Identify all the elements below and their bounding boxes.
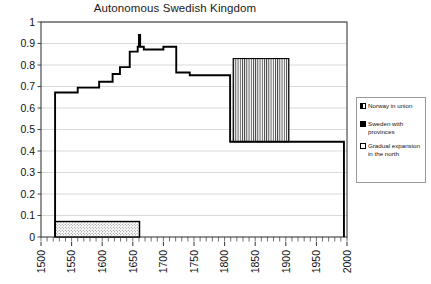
- svg-text:0.2: 0.2: [20, 188, 35, 200]
- svg-text:0.7: 0.7: [20, 80, 35, 92]
- legend-label-norway: Norway in union: [368, 102, 412, 109]
- svg-text:1550: 1550: [65, 250, 77, 274]
- svg-text:1800: 1800: [218, 250, 230, 274]
- svg-text:1500: 1500: [35, 250, 47, 274]
- axis-ticks: [38, 22, 348, 246]
- legend-label-gradual: Gradual expansion in the north: [368, 142, 422, 157]
- legend-item-sweden: Sweden with provinces: [360, 120, 422, 135]
- svg-text:0.8: 0.8: [20, 59, 35, 71]
- hatched-square-icon: [360, 103, 366, 109]
- svg-text:0.1: 0.1: [20, 209, 35, 221]
- svg-text:0: 0: [29, 231, 35, 243]
- svg-text:0.4: 0.4: [20, 145, 35, 157]
- filled-square-icon: [360, 121, 366, 127]
- legend-item-norway: Norway in union: [360, 102, 422, 109]
- chart-legend: Norway in union Sweden with provinces Gr…: [356, 97, 426, 183]
- svg-text:1700: 1700: [157, 250, 169, 274]
- grid-lines: [41, 22, 347, 216]
- x-axis-labels: 1500155016001650170017501800185019001950…: [35, 250, 353, 274]
- svg-text:1: 1: [29, 16, 35, 28]
- legend-item-gradual: Gradual expansion in the north: [360, 142, 422, 157]
- legend-label-sweden: Sweden with provinces: [368, 120, 422, 135]
- svg-text:1600: 1600: [96, 250, 108, 274]
- svg-text:2000: 2000: [341, 250, 353, 274]
- svg-text:1900: 1900: [280, 250, 292, 274]
- svg-text:1650: 1650: [127, 250, 139, 274]
- svg-text:0.5: 0.5: [20, 123, 35, 135]
- svg-text:0.9: 0.9: [20, 37, 35, 49]
- svg-text:0.6: 0.6: [20, 102, 35, 114]
- svg-text:0.3: 0.3: [20, 166, 35, 178]
- y-axis-labels: 00.10.20.30.40.50.60.70.80.91: [20, 16, 35, 243]
- svg-text:1750: 1750: [188, 250, 200, 274]
- svg-text:1850: 1850: [249, 250, 261, 274]
- empty-square-icon: [360, 143, 366, 149]
- svg-text:1950: 1950: [310, 250, 322, 274]
- chart-container: Autonomous Swedish Kingdom 00.10.20.30.4…: [0, 0, 431, 284]
